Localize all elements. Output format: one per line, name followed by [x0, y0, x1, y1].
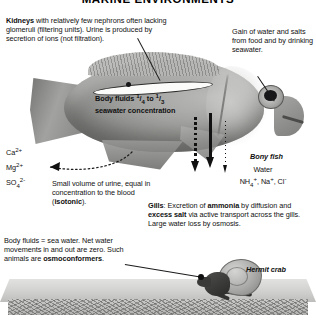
hermit-crab-label: Hermit crab — [246, 266, 286, 275]
ion-item-calcium: Ca2+ — [6, 144, 46, 159]
body-fluids-middle: to — [145, 94, 156, 103]
arrow-shaft — [194, 117, 196, 163]
ion-list: Ca2+ Mg2+ SO42- — [6, 144, 46, 191]
fraction-2-denominator: 3 — [161, 98, 164, 105]
gills-annotation: Gills: Excretion of ammonia by diffusion… — [148, 202, 313, 229]
osmoconformers-keyword: osmoconformers — [43, 254, 102, 263]
urine-text-b: ). — [82, 197, 86, 206]
ion-charge: 2+ — [15, 146, 22, 153]
body-fluids-prefix: Body fluids — [95, 94, 136, 103]
ion-symbol: Mg — [6, 163, 16, 172]
urine-annotation: Small volume of urine, equal in concentr… — [52, 180, 156, 207]
sodium-symbol: , Na — [257, 177, 270, 186]
kidney-pointer-dot — [126, 82, 131, 87]
kidneys-keyword: Kidneys — [6, 16, 34, 25]
excess-salt-keyword: excess salt — [148, 210, 186, 219]
chloride-symbol: , Cl — [274, 177, 285, 186]
figure-title: MARINE ENVIRONMENTS — [0, 0, 316, 5]
arrow-head — [191, 161, 199, 172]
water-label: Water — [213, 166, 313, 175]
osmoconformer-leader-dot — [198, 274, 204, 280]
ion-item-magnesium: Mg2+ — [6, 159, 46, 174]
fish-dorsal-fin — [88, 52, 220, 76]
ion-symbol: SO — [6, 178, 16, 187]
osmoconformer-leader-line — [125, 264, 202, 278]
ion-charge: 2+ — [16, 161, 23, 168]
arrow-shaft — [225, 121, 227, 167]
excreted-ions-label: NH4+, Na+, Cl- — [213, 175, 313, 190]
gain-of-water-annotation: Gain of water and salts from food and by… — [232, 28, 314, 55]
ion-charge: 2- — [20, 176, 25, 183]
ion-item-sulfate: SO42- — [6, 174, 46, 191]
arrow-shaft — [209, 113, 211, 159]
osmo-text-b: . — [102, 254, 104, 263]
gills-keyword: Gills — [148, 201, 164, 210]
ion-secretion-arrow — [36, 148, 136, 176]
ammonia-keyword: ammonia — [207, 201, 239, 210]
chloride-charge: - — [284, 175, 286, 182]
gills-seg-b: by diffusion and — [239, 201, 291, 210]
fraction-2-numerator: 1 — [156, 92, 159, 99]
body-fluids-annotation: Body fluids 1/4 to 1/3seawater concentra… — [95, 92, 210, 116]
bony-fish-label: Bony fish — [250, 153, 283, 162]
ion-symbol: Ca — [6, 148, 15, 157]
kidneys-annotation: Kidneys with relatively few nephrons oft… — [6, 17, 181, 44]
water-ions-annotation: Water NH4+, Na+, Cl- — [213, 166, 313, 190]
body-fluids-suffix: seawater concentration — [95, 106, 175, 115]
ammonium-symbol: NH — [240, 177, 250, 186]
osmoconformers-annotation: Body fluids = sea water. Net water movem… — [4, 237, 144, 264]
fraction-1-numerator: 1 — [136, 92, 139, 99]
marine-environments-figure: MARINE ENVIRONMENTS — [0, 0, 316, 321]
gill-arrow-water-in — [191, 117, 200, 179]
isotonic-keyword: isotonic — [54, 197, 82, 206]
gills-seg-a: : Excretion of — [164, 201, 208, 210]
